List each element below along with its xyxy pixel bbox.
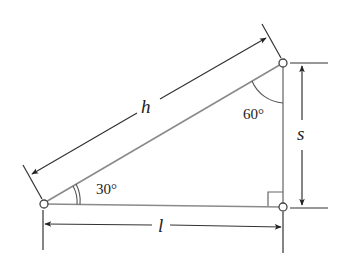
label-l: l (158, 215, 163, 236)
angle-arc-60 (252, 81, 283, 103)
triangle (44, 63, 283, 207)
h-dim-arrow-left (32, 113, 137, 174)
label-h: h (141, 96, 151, 117)
triangle-diagram: h 60° s 30° l (0, 0, 356, 270)
vertex-bottom-left (40, 200, 48, 208)
l-dim-arrow-right (170, 225, 281, 227)
label-s: s (297, 123, 304, 144)
label-60-degrees: 60° (243, 106, 264, 122)
label-30-degrees: 30° (96, 181, 117, 197)
vertex-top-right (279, 59, 287, 67)
h-extension-right (262, 24, 281, 58)
angle-arc-30-inner (73, 186, 77, 205)
vertex-bottom-right (279, 203, 287, 211)
hypotenuse-line (44, 63, 283, 203)
h-dim-arrow-right (160, 38, 266, 99)
l-dim-arrow-left (45, 224, 152, 225)
